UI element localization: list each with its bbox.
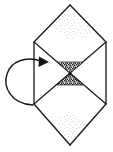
- bowtie-crossing-point: [69, 72, 72, 75]
- origami-diagram-figure: Origami folding step diagram Top flap Bo…: [0, 0, 113, 152]
- diagram-canvas: [0, 0, 113, 152]
